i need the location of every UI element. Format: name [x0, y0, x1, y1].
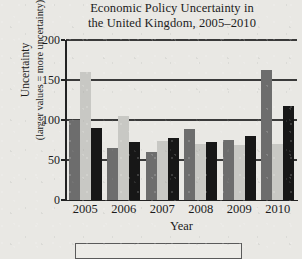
y-tick-label-100: 100 [20, 114, 60, 126]
x-tick-label-2005: 2005 [66, 202, 105, 218]
bar-2007-series-2 [157, 141, 168, 200]
bar-2010-series-2 [272, 144, 283, 200]
x-tick-label-2007: 2007 [143, 202, 182, 218]
bar-2010-series-1 [261, 70, 272, 200]
plot-area [66, 40, 297, 200]
bar-group-2009 [220, 40, 259, 200]
x-tick-label-2010: 2010 [259, 202, 298, 218]
bar-2005-series-2 [80, 72, 91, 200]
legend-box [75, 243, 242, 259]
bar-2008-series-3 [206, 142, 217, 200]
bar-2009-series-1 [223, 140, 234, 200]
bar-group-2007 [143, 40, 182, 200]
bar-2009-series-3 [245, 136, 256, 200]
bar-2007-series-1 [146, 152, 157, 200]
y-tick-label-200: 200 [20, 34, 60, 46]
y-tick-label-150: 150 [20, 74, 60, 86]
bar-2006-series-1 [107, 148, 118, 200]
x-axis-tick-labels: 200520062007200820092010 [66, 202, 297, 218]
bar-2009-series-2 [234, 145, 245, 200]
bar-2008-series-1 [184, 129, 195, 200]
x-axis-label: Year [66, 219, 297, 234]
bar-group-2005 [66, 40, 105, 200]
bar-group-2006 [105, 40, 144, 200]
bar-2005-series-1 [69, 120, 80, 200]
bar-group-2008 [182, 40, 221, 200]
bar-2010-series-3 [283, 106, 294, 200]
bar-groups [66, 40, 297, 200]
bar-2006-series-3 [129, 142, 140, 200]
chart-title: Economic Policy Uncertainty in the Unite… [46, 1, 298, 30]
bar-2008-series-2 [195, 144, 206, 200]
bar-group-2010 [259, 40, 298, 200]
x-tick-label-2008: 2008 [182, 202, 221, 218]
chart-title-line-1: Economic Policy Uncertainty in [46, 1, 298, 16]
x-tick-label-2006: 2006 [105, 202, 144, 218]
bar-2005-series-3 [91, 128, 102, 200]
bar-2006-series-2 [118, 116, 129, 200]
bar-2007-series-3 [168, 138, 179, 200]
y-tick-label-50: 50 [20, 154, 60, 166]
y-tick-label-0: 0 [20, 194, 60, 206]
chart-title-line-2: the United Kingdom, 2005–2010 [46, 16, 298, 31]
x-tick-label-2009: 2009 [220, 202, 259, 218]
